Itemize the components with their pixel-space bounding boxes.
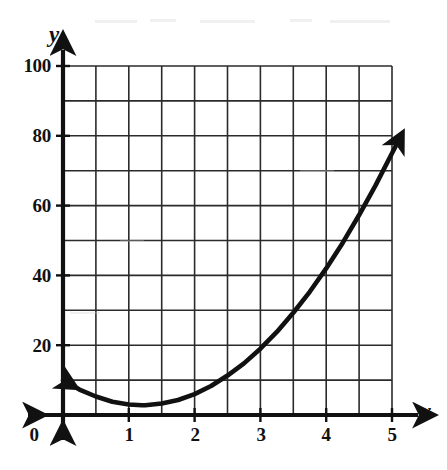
y-axis-label: y <box>49 22 59 48</box>
y-tick-label-60: 60 <box>6 195 51 217</box>
y-tick-label-40: 40 <box>6 265 51 287</box>
y-tick-label-100: 100 <box>6 55 51 77</box>
x-tick-label-1: 1 <box>116 424 142 446</box>
x-axis-label: x <box>420 399 432 425</box>
x-tick-label-0: 0 <box>21 424 47 446</box>
x-tick-label-5: 5 <box>379 424 405 446</box>
y-tick-label-80: 80 <box>6 125 51 147</box>
x-tick-label-4: 4 <box>313 424 339 446</box>
coordinate-plane <box>0 0 447 470</box>
x-tick-label-2: 2 <box>182 424 208 446</box>
y-tick-label-20: 20 <box>6 335 51 357</box>
x-tick-label-3: 3 <box>248 424 274 446</box>
scan-artifacts <box>70 19 390 314</box>
graph-figure: y x 100 80 60 40 20 0 1 2 3 4 5 <box>0 0 447 470</box>
